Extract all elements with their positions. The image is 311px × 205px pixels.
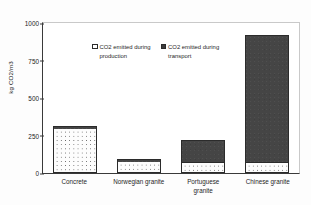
plot-area: 1000 750 500 250 0 xyxy=(42,22,300,174)
stacked-bar-chart: kg CO2/m3 1000 750 500 250 0 xyxy=(0,0,311,205)
x-tick-label-portuguese-granite: Portuguese granite xyxy=(175,177,231,195)
y-axis-title: kg CO2/m3 xyxy=(7,48,14,108)
y-tick-750: 750 xyxy=(28,57,43,64)
x-tick-label-concrete: Concrete xyxy=(46,177,102,195)
bar-segment-production xyxy=(246,162,288,173)
bar-stack xyxy=(53,126,97,173)
x-tick-label-line: Chinese granite xyxy=(246,178,290,185)
x-tick-label-line: granite xyxy=(194,187,213,194)
x-axis-labels: Concrete Norwegian granite Portuguese gr… xyxy=(42,177,300,195)
legend-entry-transport: CO2 emitted during transport xyxy=(161,43,220,61)
legend: CO2 emitted during production CO2 emitte… xyxy=(92,43,219,61)
y-tick-0: 0 xyxy=(35,170,43,177)
bar-group-chinese-granite xyxy=(245,23,289,173)
legend-label-line1: CO2 emitted during xyxy=(100,43,151,52)
bar-segment-production xyxy=(54,129,96,173)
bar-segment-transport xyxy=(246,36,288,161)
legend-label-transport: CO2 emitted during transport xyxy=(168,43,219,61)
x-tick-label-line: Portuguese xyxy=(187,178,219,185)
legend-label-production: CO2 emitted during production xyxy=(100,43,151,61)
legend-label-line2: production xyxy=(100,52,151,61)
x-tick-label-norwegian-granite: Norwegian granite xyxy=(111,177,167,195)
legend-entry-production: CO2 emitted during production xyxy=(92,43,151,61)
legend-swatch-production-icon xyxy=(92,44,98,50)
bar-stack xyxy=(117,159,161,173)
x-tick-label-chinese-granite: Chinese granite xyxy=(240,177,296,195)
bar-segment-production xyxy=(118,162,160,173)
legend-label-line1: CO2 emitted during xyxy=(168,43,219,52)
legend-swatch-transport-icon xyxy=(161,44,167,50)
bar-stack xyxy=(181,140,225,173)
x-tick-label-line: Norwegian granite xyxy=(113,178,164,185)
bar-group-concrete xyxy=(53,23,97,173)
bar-stack xyxy=(245,35,289,173)
y-tick-500: 500 xyxy=(28,95,43,102)
bar-segment-transport xyxy=(182,141,224,161)
y-tick-250: 250 xyxy=(28,132,43,139)
x-tick-label-line: Concrete xyxy=(61,178,87,185)
y-tick-1000: 1000 xyxy=(25,20,43,27)
bar-segment-production xyxy=(182,162,224,173)
legend-label-line2: transport xyxy=(168,52,219,61)
